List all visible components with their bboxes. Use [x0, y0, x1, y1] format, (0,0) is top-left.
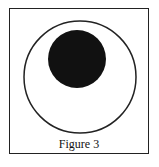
inner-filled-disc [48, 30, 106, 88]
figure-caption: Figure 3 [9, 137, 149, 152]
